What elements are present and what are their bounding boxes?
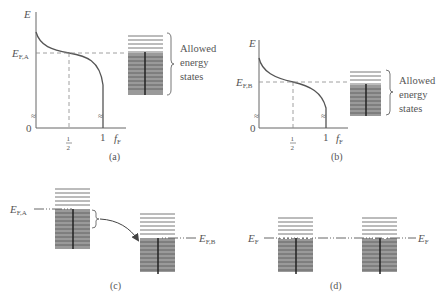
- x-axis-label: fF: [336, 132, 343, 146]
- panel-b: ≈ ≈ E EF,B 0 1 2 1 fF (b): [235, 37, 436, 163]
- energy-states-block-left: [278, 218, 313, 274]
- panel-d: EF EF (d): [247, 218, 429, 292]
- fermi-level-diagram: ≈ ≈ E EF,A 0 1 2 1 fF (a): [0, 0, 445, 301]
- tick-one: 1: [100, 131, 106, 143]
- bracket-icon: [386, 70, 393, 115]
- bracket-text-line2: energy: [399, 89, 428, 100]
- bracket-icon: [92, 210, 99, 228]
- x-axis-label: fF: [114, 132, 121, 146]
- caption-d: (d): [330, 280, 342, 292]
- fermi-dirac-curve: [36, 32, 103, 128]
- fermi-level-label: EF,B: [235, 76, 253, 90]
- y-axis-label: E: [23, 8, 31, 20]
- axis-break-icon: ≈: [31, 111, 36, 121]
- energy-states-block: [350, 72, 381, 116]
- axis-break-icon: ≈: [98, 111, 103, 121]
- axis-break-icon: ≈: [254, 111, 259, 121]
- energy-states-block-a: [55, 189, 90, 249]
- bracket-text-line1: Allowed: [399, 75, 436, 86]
- fermi-level-label-a: EF,A: [9, 203, 27, 217]
- fermi-level-label-right: EF: [417, 232, 429, 246]
- energy-states-block-b: [140, 214, 175, 274]
- tick-half-denominator: 2: [67, 144, 71, 152]
- fermi-level-label: EF,A: [11, 47, 29, 61]
- energy-states-block-right: [362, 218, 397, 274]
- tick-half-denominator: 2: [291, 144, 295, 152]
- energy-states-block: [128, 36, 163, 95]
- tick-half-numerator: 1: [67, 135, 71, 143]
- origin-label: 0: [250, 122, 256, 134]
- fermi-level-label-b: EF,B: [198, 232, 216, 246]
- caption-a: (a): [109, 151, 120, 163]
- origin-label: 0: [26, 122, 32, 134]
- tick-half-numerator: 1: [291, 135, 295, 143]
- caption-c: (c): [110, 280, 121, 292]
- bracket-text-line3: states: [180, 71, 203, 82]
- panel-a: ≈ ≈ E EF,A 0 1 2 1 fF (a): [11, 8, 217, 163]
- axis-break-icon: ≈: [321, 111, 326, 121]
- fermi-level-label-left: EF: [247, 232, 259, 246]
- panel-c: EF,A: [9, 189, 216, 292]
- fermi-dirac-curve: [259, 58, 326, 128]
- bracket-icon: [167, 33, 174, 95]
- bracket-text-line3: states: [399, 103, 422, 114]
- caption-b: (b): [331, 151, 343, 163]
- tick-one: 1: [323, 131, 329, 143]
- bracket-text-line1: Allowed: [180, 43, 217, 54]
- electron-flow-arrow-icon: [100, 219, 138, 240]
- y-axis-label: E: [248, 37, 256, 49]
- bracket-text-line2: energy: [180, 57, 209, 68]
